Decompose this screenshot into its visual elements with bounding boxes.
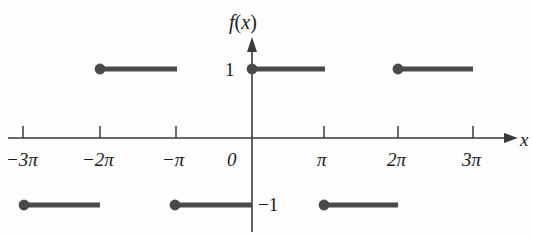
dot-2pi-plus1 bbox=[393, 64, 404, 75]
x-tick-label-pi: π bbox=[317, 150, 327, 169]
x-tick-label-minus-2pi: −2π bbox=[82, 150, 114, 169]
x-tick-label-3pi: 3π bbox=[462, 150, 481, 169]
x-axis-arrowhead bbox=[504, 133, 518, 143]
function-graph-figure: f(x) x 1 −1 −3π −2π −π 0 π 2π 3π bbox=[0, 0, 533, 237]
dot-minuspi-minus1 bbox=[170, 200, 181, 211]
y-axis-arrowhead bbox=[247, 37, 257, 52]
dot-minus3pi-minus1 bbox=[19, 200, 30, 211]
y-axis-label: f(x) bbox=[229, 12, 257, 32]
y-axis-label-var: x bbox=[241, 11, 250, 33]
x-tick-label-minus-3pi: −3π bbox=[6, 150, 38, 169]
y-axis-label-close-paren: ) bbox=[250, 11, 257, 33]
closed-endpoint-dots bbox=[19, 64, 404, 211]
dot-zero-plus1 bbox=[247, 64, 258, 75]
x-tick-label-zero: 0 bbox=[227, 150, 237, 169]
x-tick-label-2pi: 2π bbox=[387, 150, 406, 169]
y-value-label-minus-one: −1 bbox=[258, 195, 278, 214]
dot-minus2pi-plus1 bbox=[95, 64, 106, 75]
function-curve bbox=[23, 69, 473, 205]
x-axis-ticks bbox=[23, 126, 473, 138]
y-value-label-one: 1 bbox=[225, 60, 235, 79]
dot-pi-minus1 bbox=[319, 200, 330, 211]
x-axis-label: x bbox=[520, 130, 528, 149]
x-tick-label-minus-pi: −π bbox=[162, 150, 184, 169]
